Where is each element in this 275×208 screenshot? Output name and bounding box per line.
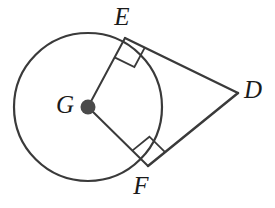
point-label-e: E [113, 3, 129, 30]
point-label-g: G [56, 91, 74, 118]
point-label-f: F [132, 172, 149, 199]
diagram-canvas: E G D F [0, 0, 275, 208]
center-point-dot [81, 100, 96, 115]
segment-tangent-ed [125, 38, 238, 93]
segment-radius-ge [88, 38, 125, 107]
segment-radius-gf [88, 107, 148, 166]
point-label-d: D [243, 76, 262, 103]
geometry-figure: E G D F [0, 0, 275, 208]
